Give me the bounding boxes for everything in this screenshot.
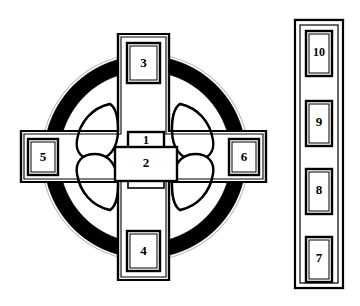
room-label-6: 6 — [241, 149, 248, 164]
linear-chamber-8[interactable]: 8 — [306, 169, 332, 214]
south-arm[interactable]: 4 — [127, 231, 160, 271]
linear-chamber-9[interactable]: 9 — [306, 101, 332, 146]
room-label-7: 7 — [316, 250, 323, 265]
east-arm[interactable]: 6 — [229, 139, 259, 175]
room-label-10: 10 — [313, 45, 325, 59]
room-label-4: 4 — [140, 243, 147, 258]
figure-root: 3 4 5 6 — [0, 0, 360, 306]
cruciform-structure: 3 4 5 6 — [21, 34, 266, 280]
linear-chamber-10[interactable]: 10 — [306, 31, 332, 76]
linear-chamber-block: 10 9 8 7 — [286, 20, 353, 288]
room-label-9: 9 — [316, 114, 323, 129]
room-label-2: 2 — [143, 155, 150, 170]
west-arm[interactable]: 5 — [28, 139, 58, 175]
linear-block-right-margin-mask — [344, 21, 353, 287]
north-arm[interactable]: 3 — [127, 43, 160, 83]
room-label-8: 8 — [316, 182, 323, 197]
linear-chamber-7[interactable]: 7 — [306, 237, 332, 282]
room-label-5: 5 — [40, 149, 47, 164]
room-label-3: 3 — [140, 55, 147, 70]
room-label-1: 1 — [143, 133, 149, 147]
plan-drawing: 3 4 5 6 — [0, 0, 360, 306]
linear-block-left-margin-mask — [286, 21, 295, 287]
